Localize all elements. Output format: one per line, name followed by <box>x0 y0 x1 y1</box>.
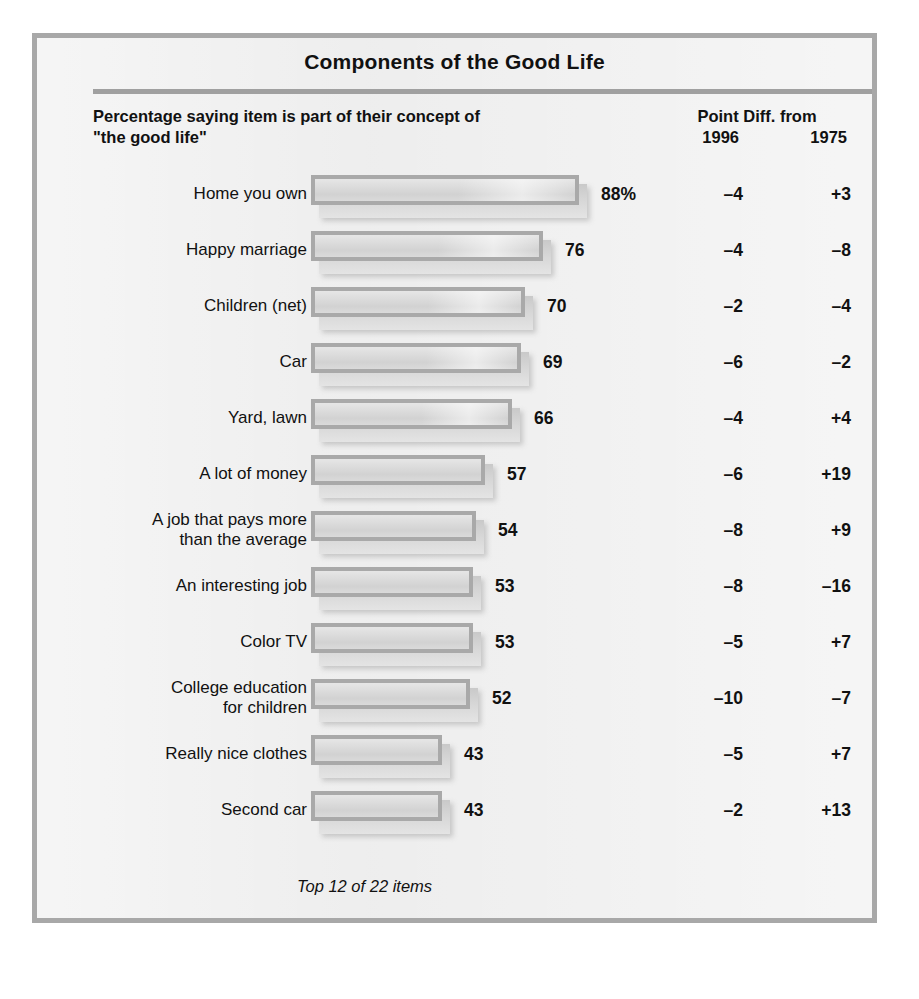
bar-value-label: 53 <box>495 576 514 597</box>
bar-face <box>311 455 485 485</box>
bar-face <box>311 231 543 261</box>
bar-row-label: An interesting job <box>176 576 307 596</box>
bar-row-label: Happy marriage <box>186 240 307 260</box>
bar-row: Children (net)70–2–4 <box>37 278 872 334</box>
bar-value-label: 52 <box>492 688 511 709</box>
bar-value-label: 57 <box>507 464 526 485</box>
chart-footnote: Top 12 of 22 items <box>37 877 872 896</box>
bar-row-label: Yard, lawn <box>228 408 307 428</box>
bar-row: Car69–6–2 <box>37 334 872 390</box>
bar <box>311 679 480 717</box>
bar-value-label: 76 <box>565 240 584 261</box>
bar <box>311 735 452 773</box>
subheader-text: Percentage saying item is part of their … <box>93 106 513 148</box>
diff-1975-value: +9 <box>787 520 851 541</box>
bar-face <box>311 343 521 373</box>
column-header-1996: 1996 <box>679 127 739 148</box>
diff-1996-value: –4 <box>679 184 743 205</box>
column-header-years: 1996 1975 <box>637 127 877 148</box>
chart-frame: Components of the Good Life Percentage s… <box>32 33 877 923</box>
diff-1975-value: +4 <box>787 408 851 429</box>
diff-1975-value: –2 <box>787 352 851 373</box>
bar <box>311 455 495 493</box>
diff-1996-value: –10 <box>679 688 743 709</box>
bar-row: Really nice clothes43–5+7 <box>37 726 872 782</box>
bar-highlight <box>458 179 575 201</box>
bar-face <box>311 791 442 821</box>
bar-value-label: 43 <box>464 800 483 821</box>
chart-figure: Components of the Good Life Percentage s… <box>0 0 919 999</box>
bar <box>311 343 531 381</box>
diff-1975-value: +7 <box>787 632 851 653</box>
bar-row-label: A job that pays more than the average <box>152 510 307 550</box>
bar <box>311 175 589 213</box>
bar-value-label: 54 <box>498 520 517 541</box>
bar-highlight <box>428 291 521 313</box>
bar <box>311 567 483 605</box>
diff-1996-value: –6 <box>679 464 743 485</box>
bar-row: A job that pays more than the average54–… <box>37 502 872 558</box>
bar-row: Yard, lawn66–4+4 <box>37 390 872 446</box>
column-header-title: Point Diff. from <box>637 106 877 127</box>
bar <box>311 791 452 829</box>
bar-highlight <box>426 347 517 369</box>
bar-value-label: 53 <box>495 632 514 653</box>
bar-face <box>311 623 473 653</box>
bar-row-label: Really nice clothes <box>165 744 307 764</box>
bar-face <box>311 399 512 429</box>
diff-1975-value: +3 <box>787 184 851 205</box>
diff-1996-value: –4 <box>679 240 743 261</box>
bar-row-label: A lot of money <box>199 464 307 484</box>
bar-face <box>311 567 473 597</box>
bar <box>311 623 483 661</box>
bar-face <box>311 511 476 541</box>
diff-1996-value: –8 <box>679 520 743 541</box>
bar-row: Color TV53–5+7 <box>37 614 872 670</box>
bar-row: An interesting job53–8–16 <box>37 558 872 614</box>
bar-row: Home you own88%–4+3 <box>37 166 872 222</box>
bar-row-label: Color TV <box>240 632 307 652</box>
diff-1975-value: +19 <box>787 464 851 485</box>
title-divider-rule <box>93 89 872 94</box>
bar-face <box>311 287 525 317</box>
bar-row: A lot of money57–6+19 <box>37 446 872 502</box>
bar <box>311 231 553 269</box>
diff-1996-value: –4 <box>679 408 743 429</box>
bar-row-label: Second car <box>221 800 307 820</box>
bar <box>311 287 535 325</box>
bar-rows: Home you own88%–4+3Happy marriage76–4–8C… <box>37 166 872 838</box>
bar-highlight <box>438 235 539 257</box>
diff-1996-value: –2 <box>679 800 743 821</box>
diff-1975-value: –16 <box>787 576 851 597</box>
diff-1975-value: –7 <box>787 688 851 709</box>
bar <box>311 399 522 437</box>
chart-panel: Components of the Good Life Percentage s… <box>37 38 872 918</box>
bar-row-label: College education for children <box>171 678 307 718</box>
bar <box>311 511 486 549</box>
column-header-1975: 1975 <box>787 127 847 148</box>
diff-1975-value: +13 <box>787 800 851 821</box>
bar-face <box>311 679 470 709</box>
bar-value-label: 66 <box>534 408 553 429</box>
bar-value-label: 70 <box>547 296 566 317</box>
bar-value-label: 69 <box>543 352 562 373</box>
bar-row-label: Children (net) <box>204 296 307 316</box>
diff-1996-value: –6 <box>679 352 743 373</box>
bar-row: Happy marriage76–4–8 <box>37 222 872 278</box>
diff-1996-value: –2 <box>679 296 743 317</box>
diff-1996-value: –5 <box>679 632 743 653</box>
diff-1975-value: –8 <box>787 240 851 261</box>
column-header-group: Point Diff. from 1996 1975 <box>637 106 877 148</box>
diff-1975-value: +7 <box>787 744 851 765</box>
bar-row-label: Car <box>280 352 307 372</box>
diff-1996-value: –8 <box>679 576 743 597</box>
bar-row: College education for children52–10–7 <box>37 670 872 726</box>
chart-title: Components of the Good Life <box>37 50 872 74</box>
diff-1975-value: –4 <box>787 296 851 317</box>
bar-value-label: 43 <box>464 744 483 765</box>
bar-row: Second car43–2+13 <box>37 782 872 838</box>
bar-face <box>311 175 579 205</box>
bar-value-label: 88% <box>601 184 636 205</box>
diff-1996-value: –5 <box>679 744 743 765</box>
bar-face <box>311 735 442 765</box>
